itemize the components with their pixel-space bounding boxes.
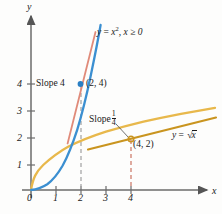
axes xyxy=(22,16,207,198)
y-tick-label-4: 4 xyxy=(17,79,22,89)
annotation-point-2-4: (2, 4) xyxy=(86,79,107,89)
x-tick-label-4: 4 xyxy=(128,193,133,203)
figure-graph-inverse-functions: y x 0 1 2 3 4 4 3 2 1 Slope 4 (2, 4) Slo… xyxy=(0,0,222,214)
x-axis-label: x xyxy=(212,186,216,196)
fraction-numerator: 1 xyxy=(112,110,116,118)
curve-label-sqrt: y = √x xyxy=(172,130,197,141)
y-axis-label: y xyxy=(27,2,31,12)
point-marker-2-4 xyxy=(78,81,84,87)
annotation-slope-4: Slope 4 xyxy=(36,79,65,89)
annotation-point-4-2: (4, 2) xyxy=(133,140,154,150)
parabola-lhs: y xyxy=(97,27,101,37)
x-tick-label-1: 1 xyxy=(53,193,58,203)
annotation-slope-one-quarter: Slope14 xyxy=(89,110,116,128)
parabola-equals: = xyxy=(104,27,109,37)
fraction-one-quarter: 14 xyxy=(112,110,116,128)
radical-argument: x xyxy=(192,130,197,141)
curve-sqrt xyxy=(31,108,215,190)
sqrt-lhs: y xyxy=(172,130,176,140)
radical-group: √x xyxy=(186,130,196,141)
x-tick-label-2: 2 xyxy=(78,193,83,203)
curve-label-parabola: y = x2, x ≥ 0 xyxy=(97,26,142,38)
slope-word: Slope xyxy=(89,114,111,124)
x-tick-label-0: 0 xyxy=(27,193,32,203)
fraction-denominator: 4 xyxy=(112,118,116,127)
y-tick-label-2: 2 xyxy=(17,133,22,143)
parabola-domain: , x ≥ 0 xyxy=(119,27,143,37)
sqrt-equals: = xyxy=(179,130,184,140)
y-tick-label-3: 3 xyxy=(17,106,22,116)
x-tick-label-3: 3 xyxy=(103,193,108,203)
y-tick-label-1: 1 xyxy=(17,160,22,170)
